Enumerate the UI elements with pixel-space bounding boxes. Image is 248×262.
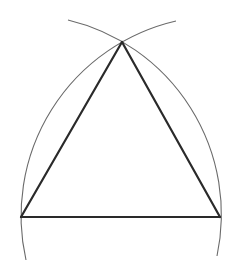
background <box>0 0 248 262</box>
equilateral-triangle-construction <box>0 0 248 262</box>
